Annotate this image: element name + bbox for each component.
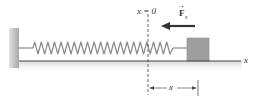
displacement-arrow-left: [149, 86, 154, 90]
origin-label: x = 0: [137, 7, 156, 16]
spring-diagram: [0, 0, 256, 102]
axis-label: x: [244, 56, 248, 65]
wall: [9, 28, 19, 68]
floor-shadow: [12, 61, 242, 73]
block: [187, 38, 209, 61]
displacement-label: x: [169, 83, 173, 92]
force-arrow-head: [161, 22, 170, 30]
displacement-arrow-right: [192, 86, 197, 90]
force-subscript: s: [185, 14, 187, 20]
origin-label-text: x = 0: [137, 6, 156, 16]
force-symbol: F: [179, 9, 185, 18]
spring: [33, 42, 173, 54]
